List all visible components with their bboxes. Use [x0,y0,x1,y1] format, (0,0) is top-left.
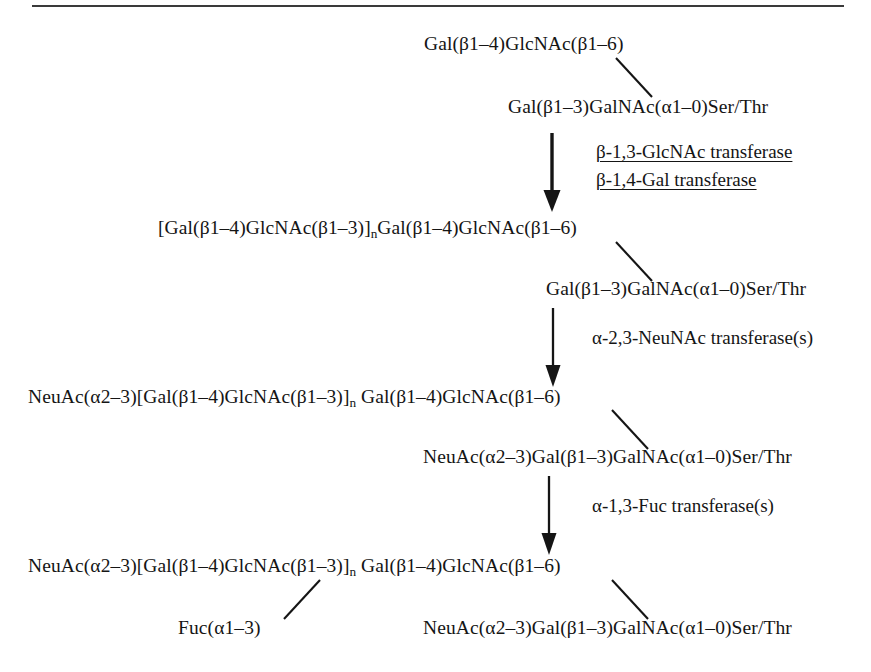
structure-4-core: NeuAc(α2–3)Gal(β1–3)GalNAc(α1–0)Ser/Thr [423,618,792,638]
enzyme-label-step1-line1: β-1,3-GlcNAc transferase [596,142,792,161]
top-horizontal-rule [32,5,844,7]
structure-3-branch-6-prefix: NeuAc(α2–3)[Gal(β1–4)GlcNAc(β1–3)] [28,386,350,407]
structure-3-core: NeuAc(α2–3)Gal(β1–3)GalNAc(α1–0)Ser/Thr [423,447,792,467]
structure-1-core: Gal(β1–3)GalNAc(α1–0)Ser/Thr [508,97,768,117]
reaction-arrow-2 [540,308,566,388]
bond-line-1 [614,56,656,100]
structure-2-branch-6-prefix: [Gal(β1–4)GlcNAc(β1–3)] [158,217,371,238]
reaction-arrow-1 [538,133,566,213]
bond-line-fucose [282,578,324,622]
bond-line-4 [610,578,652,622]
structure-1-branch-6: Gal(β1–4)GlcNAc(β1–6) [424,34,624,54]
structure-3-branch-6-suffix: Gal(β1–4)GlcNAc(β1–6) [356,386,561,407]
enzyme-label-step1-line2: β-1,4-Gal transferase [596,170,757,189]
enzyme-label-step2: α-2,3-NeuNAc transferase(s) [592,328,813,347]
structure-4-branch-6-prefix: NeuAc(α2–3)[Gal(β1–4)GlcNAc(β1–3)] [28,555,350,576]
structure-4-branch-6: NeuAc(α2–3)[Gal(β1–4)GlcNAc(β1–3)]n Gal(… [28,556,561,578]
enzyme-label-step3: α-1,3-Fuc transferase(s) [592,496,774,515]
structure-3-branch-6: NeuAc(α2–3)[Gal(β1–4)GlcNAc(β1–3)]n Gal(… [28,387,561,409]
structure-2-branch-6-suffix: Gal(β1–4)GlcNAc(β1–6) [377,217,577,238]
structure-4-fucose: Fuc(α1–3) [178,618,261,638]
reaction-arrow-3 [536,476,562,556]
structure-4-branch-6-suffix: Gal(β1–4)GlcNAc(β1–6) [356,555,561,576]
structure-2-branch-6: [Gal(β1–4)GlcNAc(β1–3)]nGal(β1–4)GlcNAc(… [158,218,577,240]
structure-2-core: Gal(β1–3)GalNAc(α1–0)Ser/Thr [546,279,806,299]
glycan-pathway-figure: Gal(β1–4)GlcNAc(β1–6) Gal(β1–3)GalNAc(α1… [0,0,871,672]
